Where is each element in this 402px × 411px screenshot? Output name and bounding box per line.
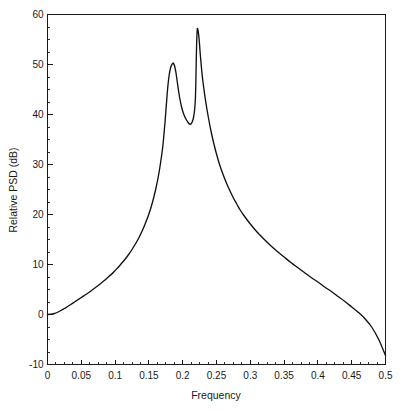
y-axis-ticks — [48, 15, 53, 365]
y-tick-label: 60 — [32, 9, 44, 20]
y-tick-label: 30 — [32, 159, 44, 170]
y-axis-tick-labels: -100102030405060 — [29, 9, 44, 370]
y-tick-label: 10 — [32, 259, 44, 270]
y-tick-label: 20 — [32, 209, 44, 220]
x-tick-label: 0.15 — [139, 370, 159, 381]
y-tick-label: 40 — [32, 109, 44, 120]
x-tick-label: 0.35 — [274, 370, 294, 381]
x-tick-label: 0.05 — [72, 370, 92, 381]
plot-frame — [48, 15, 386, 365]
x-axis-tick-labels: 00.050.10.150.20.250.30.350.40.450.5 — [45, 370, 393, 381]
x-tick-label: 0.4 — [311, 370, 325, 381]
x-axis-ticks — [48, 360, 386, 365]
y-axis-title: Relative PSD (dB) — [7, 147, 19, 232]
psd-line-chart: 00.050.10.150.20.250.30.350.40.450.5 -10… — [0, 0, 402, 411]
x-tick-label: 0.3 — [243, 370, 257, 381]
series-relative-psd — [48, 28, 386, 355]
x-tick-label: 0.2 — [176, 370, 190, 381]
y-tick-label: 0 — [38, 309, 44, 320]
x-tick-label: 0.25 — [207, 370, 227, 381]
x-tick-label: 0 — [45, 370, 51, 381]
x-tick-label: 0.45 — [342, 370, 362, 381]
y-tick-label: 50 — [32, 59, 44, 70]
chart-figure: 00.050.10.150.20.250.30.350.40.450.5 -10… — [0, 0, 402, 411]
y-tick-label: -10 — [29, 359, 44, 370]
x-tick-label: 0.5 — [379, 370, 393, 381]
x-axis-title: Frequency — [191, 389, 241, 401]
x-tick-label: 0.1 — [108, 370, 122, 381]
